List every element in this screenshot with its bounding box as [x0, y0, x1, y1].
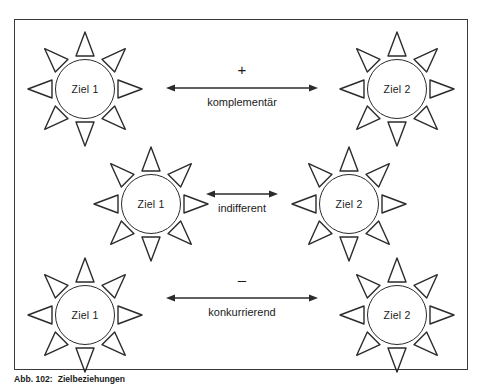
figure-caption-number: Abb. 102:: [14, 374, 53, 384]
sun-label: Ziel 1: [72, 309, 99, 321]
double-headed-arrow-icon: [206, 188, 278, 200]
sun-core-circle: Ziel 1: [55, 285, 115, 345]
relation-complementary: + komplementär: [166, 62, 318, 112]
sun-core-circle: Ziel 1: [55, 59, 115, 119]
sun-node-middle-left: Ziel 1: [92, 145, 210, 263]
sun-label: Ziel 2: [384, 309, 411, 321]
relation-competing: – konkurrierend: [166, 272, 318, 322]
figure-caption: Abb. 102:Zielbeziehungen: [14, 374, 125, 385]
relation-label: komplementär: [166, 96, 318, 108]
sun-node-bottom-right: Ziel 2: [338, 256, 456, 374]
sun-label: Ziel 1: [72, 83, 99, 95]
double-headed-arrow-icon: [166, 82, 318, 94]
sun-core-circle: Ziel 2: [367, 59, 427, 119]
sun-core-circle: Ziel 2: [367, 285, 427, 345]
relation-indifferent: indifferent: [206, 178, 278, 218]
sun-node-middle-right: Ziel 2: [290, 145, 408, 263]
sun-node-top-left: Ziel 1: [26, 30, 144, 148]
sun-core-circle: Ziel 2: [319, 174, 379, 234]
sun-core-circle: Ziel 1: [121, 174, 181, 234]
sun-node-bottom-left: Ziel 1: [26, 256, 144, 374]
figure-root: Ziel 1 Ziel 2: [0, 0, 483, 385]
figure-caption-text: Zielbeziehungen: [58, 374, 125, 384]
sun-label: Ziel 2: [336, 198, 363, 210]
sun-label: Ziel 1: [138, 198, 165, 210]
relation-label: konkurrierend: [166, 306, 318, 318]
relation-sign: –: [166, 272, 318, 287]
relation-label: indifferent: [206, 202, 278, 214]
double-headed-arrow-icon: [166, 292, 318, 304]
sun-node-top-right: Ziel 2: [338, 30, 456, 148]
sun-label: Ziel 2: [384, 83, 411, 95]
relation-sign: +: [166, 62, 318, 77]
